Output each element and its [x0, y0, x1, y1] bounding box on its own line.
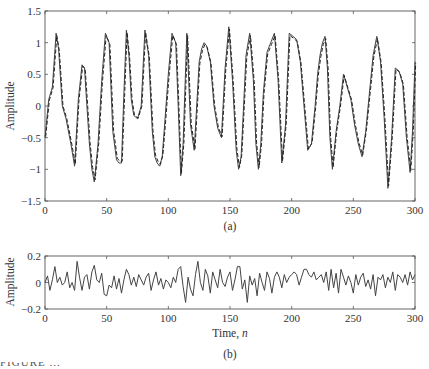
x-tick-label: 250: [345, 312, 362, 324]
x-tick-label: 300: [407, 312, 424, 324]
figure-caption-partial: FIGURE ...: [0, 362, 429, 369]
bottom-chart: 050100150200250300−0.200.2 Amplitude Tim…: [4, 250, 424, 361]
top-chart: 050100150200250300−1.5−1−0.500.511.5 Amp…: [4, 5, 424, 233]
y-tick-label: −1: [29, 163, 41, 175]
series-line-error: [45, 261, 415, 302]
y-tick-label: 0.5: [27, 68, 41, 80]
bottom-x-axis-label: Time, n: [212, 327, 248, 340]
x-tick-label: 150: [222, 312, 239, 324]
bottom-series: [45, 261, 415, 302]
x-label-text: Time,: [212, 327, 242, 340]
x-tick-label: 0: [42, 312, 48, 324]
x-label-var: n: [242, 327, 248, 339]
series-line-dashed: [46, 29, 416, 186]
x-tick-label: 50: [101, 204, 113, 216]
y-tick-label: −1.5: [21, 195, 41, 207]
x-tick-label: 0: [42, 204, 48, 216]
top-y-axis-label: Amplitude: [4, 81, 17, 130]
y-tick-label: −0.5: [21, 132, 41, 144]
x-tick-label: 100: [160, 312, 177, 324]
x-tick-label: 100: [160, 204, 177, 216]
x-tick-label: 200: [283, 312, 300, 324]
bottom-panel-label: (b): [223, 348, 237, 361]
x-tick-label: 250: [345, 204, 362, 216]
figure: 050100150200250300−1.5−1−0.500.511.5 Amp…: [0, 0, 429, 369]
x-tick-label: 200: [283, 204, 300, 216]
y-tick-label: 0.2: [27, 250, 41, 262]
y-tick-label: 0: [36, 277, 42, 289]
y-tick-label: −0.2: [21, 303, 41, 315]
y-tick-label: 0: [36, 100, 42, 112]
x-tick-label: 300: [407, 204, 424, 216]
y-tick-label: 1: [36, 37, 42, 49]
x-tick-label: 150: [222, 204, 239, 216]
x-tick-label: 50: [101, 312, 113, 324]
y-tick-label: 1.5: [27, 5, 41, 17]
top-series: [45, 27, 416, 189]
bottom-y-axis-label: Amplitude: [4, 257, 17, 306]
top-panel-label: (a): [224, 220, 237, 233]
